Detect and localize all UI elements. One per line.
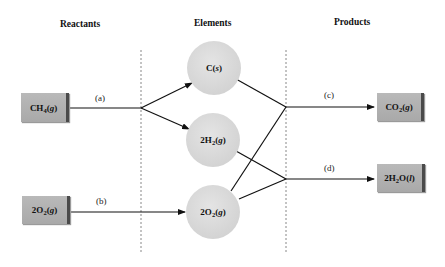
reactant-o2-formula: 2O2(g) xyxy=(32,205,57,215)
element-hydrogen-circle: 2H2(g) xyxy=(186,113,240,167)
element-oxygen-formula: 2O2(g) xyxy=(200,207,225,217)
element-carbon-formula: C(s) xyxy=(206,63,222,73)
product-co2-formula: CO2(g) xyxy=(385,102,412,112)
step-a-label: (a) xyxy=(95,93,105,103)
step-d-label: (d) xyxy=(324,163,335,173)
product-h2o-box: 2H2O(l) xyxy=(377,164,425,192)
element-hydrogen-formula: 2H2(g) xyxy=(200,135,225,145)
reactant-ch4-box: CH4(g) xyxy=(21,93,69,122)
reactant-ch4-formula: CH4(g) xyxy=(30,103,57,113)
step-c-label: (c) xyxy=(324,90,334,100)
product-h2o-formula: 2H2O(l) xyxy=(384,173,414,183)
product-co2-box: CO2(g) xyxy=(377,93,424,121)
reactant-o2-box: 2O2(g) xyxy=(22,196,70,224)
element-oxygen-circle: 2O2(g) xyxy=(186,185,240,239)
step-b-label: (b) xyxy=(96,196,107,206)
element-carbon-circle: C(s) xyxy=(187,41,241,95)
